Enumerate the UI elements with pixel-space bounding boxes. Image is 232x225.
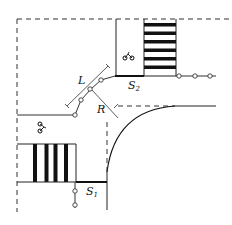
label-s2: S2	[128, 79, 141, 93]
length-dimension	[65, 64, 110, 108]
intersection-diagram: S2 L R S	[0, 0, 232, 225]
right-lane-line	[176, 74, 216, 78]
bottom-crosswalk	[17, 144, 76, 182]
label-s1: S1	[86, 185, 98, 199]
corner-curb-arc	[107, 106, 175, 172]
bottom-lane-line	[73, 182, 77, 208]
label-l: L	[77, 74, 85, 87]
label-r: R	[96, 103, 105, 116]
bicycle-icon	[123, 52, 134, 60]
top-crosswalk	[116, 19, 176, 76]
bicycle-icon	[38, 122, 46, 133]
